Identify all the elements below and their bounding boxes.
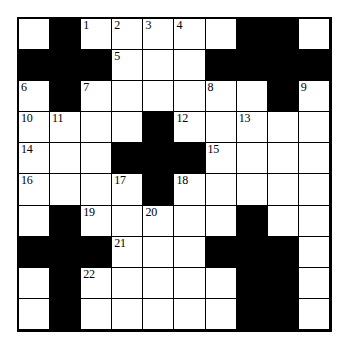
grid-cell-block (143, 174, 174, 205)
grid-cell-open[interactable] (81, 299, 112, 330)
grid-cell-open[interactable]: 15 (206, 143, 237, 174)
grid-cell-open[interactable] (206, 112, 237, 143)
grid-cell-block (19, 50, 50, 81)
grid-cell-block (237, 268, 268, 299)
grid-cell-open[interactable] (143, 50, 174, 81)
grid-cell-open[interactable]: 11 (50, 112, 81, 143)
grid-cell-open[interactable] (50, 174, 81, 205)
grid-cell-open[interactable]: 3 (143, 19, 174, 50)
grid-cell-open[interactable]: 6 (19, 81, 50, 112)
grid-cell-open[interactable] (174, 206, 205, 237)
grid-cell-open[interactable]: 20 (143, 206, 174, 237)
grid-cell-open[interactable] (19, 206, 50, 237)
grid-cell-block (268, 268, 299, 299)
grid-cell-open[interactable]: 8 (206, 81, 237, 112)
grid-cell-open[interactable] (174, 81, 205, 112)
grid-cell-open[interactable] (19, 268, 50, 299)
grid-cell-open[interactable] (299, 237, 330, 268)
grid-cell-block (237, 299, 268, 330)
grid-cell-open[interactable] (268, 143, 299, 174)
grid-cell-number: 5 (114, 50, 120, 63)
grid-cell-open[interactable] (19, 299, 50, 330)
grid-cell-open[interactable] (237, 143, 268, 174)
grid-cell-open[interactable] (268, 206, 299, 237)
grid-cell-open[interactable] (112, 81, 143, 112)
grid-cell-number: 9 (301, 81, 307, 94)
grid-cell-open[interactable]: 7 (81, 81, 112, 112)
grid-cell-block (143, 112, 174, 143)
grid-cell-number: 13 (239, 112, 251, 125)
grid-cell-block (19, 237, 50, 268)
grid-cell-open[interactable] (299, 206, 330, 237)
grid-cell-open[interactable] (19, 19, 50, 50)
grid-cell-open[interactable] (206, 268, 237, 299)
grid-cell-block (237, 50, 268, 81)
grid-cell-open[interactable] (143, 268, 174, 299)
grid-cell-open[interactable] (143, 299, 174, 330)
grid-cell-open[interactable] (112, 206, 143, 237)
grid-cell-open[interactable] (299, 268, 330, 299)
grid-cell-block (268, 19, 299, 50)
grid-cell-block (268, 237, 299, 268)
grid-cell-open[interactable]: 13 (237, 112, 268, 143)
crossword-puzzle: 12345678910111213141516171819202122 (0, 0, 345, 345)
grid-cell-open[interactable] (299, 174, 330, 205)
grid-cell-open[interactable] (237, 81, 268, 112)
grid-cell-block (237, 19, 268, 50)
grid-cell-open[interactable] (237, 174, 268, 205)
grid-cell-open[interactable] (112, 112, 143, 143)
grid-cell-open[interactable]: 21 (112, 237, 143, 268)
grid-cell-open[interactable] (81, 112, 112, 143)
grid-cell-open[interactable]: 10 (19, 112, 50, 143)
crossword-grid: 12345678910111213141516171819202122 (17, 17, 332, 332)
grid-cell-number: 7 (83, 81, 89, 94)
grid-cell-open[interactable] (299, 19, 330, 50)
grid-cell-open[interactable]: 1 (81, 19, 112, 50)
grid-cell-open[interactable]: 4 (174, 19, 205, 50)
grid-cell-block (299, 50, 330, 81)
grid-cell-open[interactable] (299, 112, 330, 143)
grid-cell-open[interactable] (143, 81, 174, 112)
grid-cell-open[interactable] (143, 237, 174, 268)
grid-cell-number: 14 (21, 143, 33, 156)
grid-cell-open[interactable] (206, 299, 237, 330)
grid-cell-open[interactable]: 22 (81, 268, 112, 299)
grid-cell-open[interactable] (81, 174, 112, 205)
grid-cell-number: 11 (52, 112, 63, 125)
grid-cell-open[interactable] (206, 174, 237, 205)
grid-cell-number: 19 (83, 206, 95, 219)
grid-cell-open[interactable]: 2 (112, 19, 143, 50)
grid-cell-open[interactable] (174, 299, 205, 330)
grid-cell-open[interactable] (206, 19, 237, 50)
grid-cell-open[interactable]: 19 (81, 206, 112, 237)
grid-cell-open[interactable] (299, 299, 330, 330)
grid-cell-open[interactable] (174, 268, 205, 299)
grid-cell-block (50, 299, 81, 330)
grid-cell-open[interactable]: 12 (174, 112, 205, 143)
grid-cell-number: 4 (176, 19, 182, 32)
grid-cell-block (50, 268, 81, 299)
grid-cell-open[interactable]: 5 (112, 50, 143, 81)
grid-cell-open[interactable]: 16 (19, 174, 50, 205)
grid-cell-open[interactable]: 18 (174, 174, 205, 205)
grid-cell-open[interactable] (81, 143, 112, 174)
grid-cell-open[interactable] (206, 206, 237, 237)
grid-cell-open[interactable] (299, 143, 330, 174)
grid-cell-number: 8 (208, 81, 214, 94)
grid-cell-number: 10 (21, 112, 33, 125)
grid-cell-open[interactable] (112, 268, 143, 299)
grid-cell-open[interactable]: 17 (112, 174, 143, 205)
grid-cell-open[interactable] (112, 299, 143, 330)
grid-cell-open[interactable] (268, 174, 299, 205)
grid-cell-open[interactable]: 14 (19, 143, 50, 174)
grid-cell-open[interactable] (174, 237, 205, 268)
grid-cell-open[interactable]: 9 (299, 81, 330, 112)
grid-cell-number: 20 (145, 206, 157, 219)
grid-cell-number: 2 (114, 19, 120, 32)
grid-cell-number: 15 (208, 143, 220, 156)
grid-cell-open[interactable] (174, 50, 205, 81)
grid-cell-block (206, 237, 237, 268)
grid-cell-open[interactable] (268, 112, 299, 143)
grid-cell-number: 17 (114, 174, 126, 187)
grid-cell-open[interactable] (50, 143, 81, 174)
